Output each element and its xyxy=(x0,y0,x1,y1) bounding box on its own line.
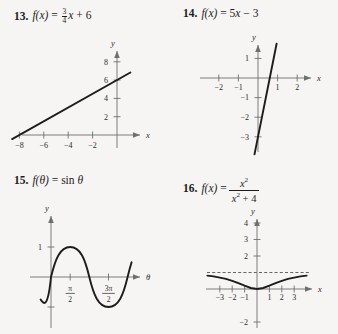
graph-13-x-axis-label: x xyxy=(145,130,150,140)
problem-16: 16. f(x) =x2x2 + 4 −3 −2 −1 1 xyxy=(169,167,338,334)
graph-13-xtick-label--4: −4 xyxy=(64,141,73,150)
graph-16-xtick-label--3: −3 xyxy=(216,293,225,302)
graph-13-y-axis-label: y xyxy=(110,38,115,48)
graph-14-ytick-label-1: 1 xyxy=(245,54,249,63)
graph-14-ytick-label--3: −3 xyxy=(240,133,249,142)
graph-14: −2 −1 1 2 1 −1 −2 −3 x y xyxy=(169,26,338,167)
worksheet-page: 13. f(x) = 34x + 6 −8 −6 −4 −2 xyxy=(0,0,338,334)
graph-13: −8 −6 −4 −2 2 4 6 8 x y xyxy=(0,26,169,167)
graph-15-y-axis-label: y xyxy=(44,203,49,213)
graph-15: 1 π 2 3π 2 θ y xyxy=(0,193,169,334)
graph-16-y-axis-arrow xyxy=(254,219,260,226)
fraction-three-fourths: 34 xyxy=(62,8,68,25)
graph-16-ytick-label-2: 2 xyxy=(244,252,248,261)
graph-16-x-axis-label: x xyxy=(317,284,322,294)
problem-15-expression: f(θ) = sin θ xyxy=(32,175,83,187)
graph-13-line xyxy=(12,73,130,140)
graph-14-xtick-label--1: −1 xyxy=(234,83,243,92)
graph-14-ytick-label--2: −2 xyxy=(240,113,249,122)
problem-14-prompt: 14. f(x) = 5x − 3 xyxy=(183,8,258,20)
graph-14-xtick-label-1: 1 xyxy=(276,83,280,92)
graph-15-x-axis-arrow xyxy=(133,274,140,280)
graph-14-y-axis-label: y xyxy=(251,32,256,42)
graph-14-y-axis-arrow xyxy=(255,45,261,52)
graph-13-xtick-label--2: −2 xyxy=(88,141,97,150)
graph-16-y-axis-label: y xyxy=(250,206,255,216)
problem-13-prompt: 13. f(x) = 34x + 6 xyxy=(14,8,91,25)
graph-16-xtick-label-1: 1 xyxy=(267,293,271,302)
graph-16-ytick-label--2: −2 xyxy=(239,318,248,327)
problem-13-expression: f(x) = 34x + 6 xyxy=(32,8,91,25)
graph-13-ytick-label-8: 8 xyxy=(104,58,108,67)
graph-16-xtick-label-3: 3 xyxy=(292,293,296,302)
graph-14-xtick-label-2: 2 xyxy=(295,83,299,92)
graph-15-xtick-label-pi-over-2-denominator: 2 xyxy=(68,295,72,304)
graph-15-ytick-label-1: 1 xyxy=(38,243,42,252)
problem-14-number: 14. xyxy=(183,8,197,20)
graph-15-x-axis-label: θ xyxy=(146,272,150,282)
graph-13-ytick-label-6: 6 xyxy=(104,76,108,85)
graph-13-xtick-label--6: −6 xyxy=(40,141,49,150)
graph-15-xtick-label-3pi-over-2-numerator: 3π xyxy=(105,284,113,293)
graph-13-xtick-label--8: −8 xyxy=(15,141,24,150)
graph-16-x-axis-arrow xyxy=(305,286,312,292)
graph-16-xtick-label--2: −2 xyxy=(228,293,237,302)
graph-14-x-axis-arrow xyxy=(304,75,311,81)
graph-15-y-axis-arrow xyxy=(48,216,54,223)
problem-13-number: 13. xyxy=(14,11,28,23)
problem-15-number: 15. xyxy=(14,175,28,187)
graph-14-xtick-label--2: −2 xyxy=(215,83,224,92)
problem-15: 15. f(θ) = sin θ 1 π 2 xyxy=(0,167,169,334)
problem-14-expression: f(x) = 5x − 3 xyxy=(201,8,258,20)
graph-16-xtick-label-2: 2 xyxy=(280,293,284,302)
graph-13-y-axis-arrow xyxy=(114,51,120,58)
problem-15-prompt: 15. f(θ) = sin θ xyxy=(14,175,83,187)
problem-14: 14. f(x) = 5x − 3 −2 −1 1 2 xyxy=(169,0,338,167)
graph-16-ytick-label-3: 3 xyxy=(244,235,248,244)
graph-13-ytick-label-4: 4 xyxy=(104,94,108,103)
graph-14-x-axis-label: x xyxy=(316,73,321,83)
graph-16: −3 −2 −1 1 2 3 2 3 4 −2 x y xyxy=(169,193,338,334)
graph-16-ytick-label-4: 4 xyxy=(244,219,248,228)
graph-13-x-axis-arrow xyxy=(133,132,140,138)
fraction-numerator: x2 xyxy=(237,176,251,190)
graph-13-ytick-label-2: 2 xyxy=(104,113,108,122)
graph-15-xtick-label-3pi-over-2-denominator: 2 xyxy=(107,295,111,304)
graph-16-xtick-label--1: −1 xyxy=(240,293,249,302)
graph-15-xtick-label-pi-over-2-numerator: π xyxy=(68,284,72,293)
graph-14-ytick-label--1: −1 xyxy=(240,93,249,102)
problem-13: 13. f(x) = 34x + 6 −8 −6 −4 −2 xyxy=(0,0,169,167)
